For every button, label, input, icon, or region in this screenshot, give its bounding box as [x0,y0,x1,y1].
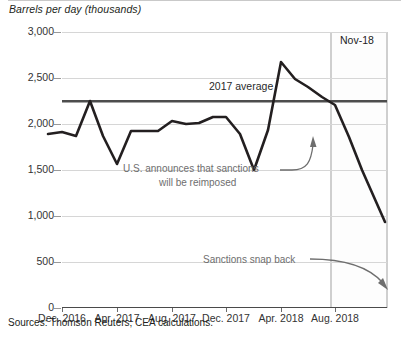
y-tick-500 [54,262,61,263]
gridline-2500 [62,78,387,79]
y-label-1500: 1,500 [4,163,54,175]
y-axis-unit-label: Barrels per day (thousands) [9,3,141,15]
y-tick-3000 [54,32,61,33]
y-label-3000: 3,000 [4,25,54,37]
x-label-aug-2018: Aug. 2018 [311,312,359,324]
y-tick-2000 [54,124,61,125]
y-label-2000: 2,000 [4,117,54,129]
y-tick-1000 [54,216,61,217]
y-label-1000: 1,000 [4,209,54,221]
y-tick-0 [54,308,61,309]
annotation-sanctions-reimposed-line1: U.S. announces that sanctions [123,162,259,176]
top-rule [8,0,401,1]
y-tick-1500 [54,170,61,171]
average-line-label: 2017 average [209,80,273,92]
band-label-nov-18: Nov-18 [340,34,374,46]
x-label-apr-2018: Apr. 2018 [259,312,304,324]
annotation-sanctions-reimposed-line2: will be reimposed [159,176,236,190]
y-label-2500: 2,500 [4,71,54,83]
y-tick-2500 [54,78,61,79]
x-axis-line [62,307,387,308]
gridline-2000 [62,124,387,125]
annotation-sanctions-snap-back: Sanctions snap back [203,253,295,267]
gridline-1000 [62,216,387,217]
chart-figure: Barrels per day (thousands) 3,000 2,500 … [0,0,409,338]
source-note: Sources: Thomson Reuters; CEA calculatio… [8,317,213,328]
gridline-3000 [62,32,387,33]
y-label-500: 500 [4,255,54,267]
